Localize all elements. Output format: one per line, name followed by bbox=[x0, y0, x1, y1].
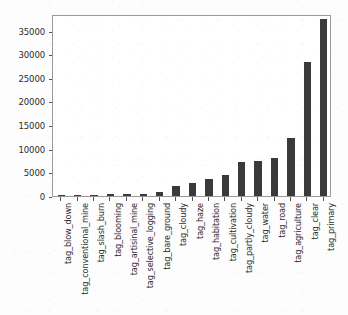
bar bbox=[90, 195, 97, 196]
y-axis: 05000100001500020000250003000035000 bbox=[0, 0, 52, 315]
bar bbox=[189, 183, 196, 196]
bar bbox=[107, 194, 114, 196]
x-axis-tick-mark bbox=[77, 197, 78, 201]
x-axis-tick-label: tag_haze bbox=[195, 203, 205, 239]
y-axis-tick-label: 30000 bbox=[18, 50, 45, 60]
x-axis-tick-mark bbox=[60, 197, 61, 201]
x-axis-tick-mark bbox=[323, 197, 324, 201]
x-axis: tag_blow_downtag_conventional_minetag_sl… bbox=[52, 197, 331, 315]
x-axis-tick-label: tag_clear bbox=[310, 203, 320, 239]
x-axis-tick-label: tag_cloudy bbox=[178, 203, 188, 246]
y-axis-tick-label: 0 bbox=[40, 192, 45, 202]
y-axis-tick-label: 25000 bbox=[18, 74, 45, 84]
x-axis-tick-label: tag_conventional_mine bbox=[80, 203, 90, 295]
bar bbox=[205, 179, 212, 196]
x-axis-tick-mark bbox=[93, 197, 94, 201]
y-axis-tick-label: 15000 bbox=[18, 121, 45, 131]
bar bbox=[172, 186, 179, 196]
x-axis-tick-mark bbox=[208, 197, 209, 201]
bar bbox=[287, 138, 294, 196]
x-axis-tick-label: tag_artisinal_mine bbox=[129, 203, 139, 275]
x-axis-tick-mark bbox=[159, 197, 160, 201]
x-axis-tick-label: tag_primary bbox=[326, 203, 336, 251]
bar bbox=[238, 162, 245, 196]
bar bbox=[140, 194, 147, 196]
bar bbox=[304, 62, 311, 196]
x-axis-tick-label: tag_water bbox=[260, 203, 270, 243]
bar bbox=[156, 192, 163, 196]
x-axis-tick-mark bbox=[290, 197, 291, 201]
x-axis-tick-label: tag_agriculture bbox=[293, 203, 303, 263]
x-axis-tick-mark bbox=[192, 197, 193, 201]
x-axis-tick-mark bbox=[175, 197, 176, 201]
x-axis-tick-mark bbox=[257, 197, 258, 201]
x-axis-tick-mark bbox=[241, 197, 242, 201]
bar bbox=[222, 175, 229, 196]
x-axis-tick-label: tag_bare_ground bbox=[162, 203, 172, 270]
x-axis-tick-mark bbox=[306, 197, 307, 201]
bar bbox=[123, 194, 130, 196]
x-axis-tick-label: tag_partly_cloudy bbox=[244, 203, 254, 273]
plot-area bbox=[52, 15, 331, 197]
y-axis-tick-label: 35000 bbox=[18, 27, 45, 37]
x-axis-tick-label: tag_road bbox=[277, 203, 287, 238]
x-axis-tick-mark bbox=[109, 197, 110, 201]
x-axis-tick-label: tag_blooming bbox=[113, 203, 123, 257]
bar-chart-figure: 05000100001500020000250003000035000 tag_… bbox=[0, 0, 348, 315]
x-axis-tick-mark bbox=[224, 197, 225, 201]
bars-layer bbox=[53, 16, 330, 196]
y-axis-tick-label: 20000 bbox=[18, 97, 45, 107]
bar bbox=[254, 161, 261, 196]
x-axis-tick-mark bbox=[126, 197, 127, 201]
x-axis-tick-label: tag_slash_burn bbox=[96, 203, 106, 262]
y-axis-tick-label: 10000 bbox=[18, 145, 45, 155]
x-axis-tick-label: tag_selective_logging bbox=[145, 203, 155, 288]
bar bbox=[271, 158, 278, 196]
x-axis-tick-mark bbox=[142, 197, 143, 201]
y-axis-tick-label: 5000 bbox=[24, 168, 45, 178]
x-axis-tick-mark bbox=[274, 197, 275, 201]
x-axis-tick-label: tag_blow_down bbox=[63, 203, 73, 264]
bar bbox=[74, 195, 81, 196]
bar bbox=[58, 195, 65, 196]
x-axis-tick-label: tag_habitation bbox=[211, 203, 221, 260]
bar bbox=[320, 19, 327, 196]
x-axis-tick-label: tag_cultivation bbox=[228, 203, 238, 261]
